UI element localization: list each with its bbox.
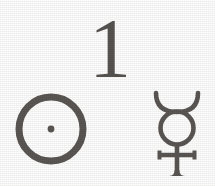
mercury-foot-serif: [169, 170, 185, 176]
mercury-horns: [156, 93, 198, 112]
mercury-crossbar-left-serif: [158, 151, 162, 160]
mercury-crossbar-right-serif: [193, 151, 197, 160]
sun-symbol: [12, 90, 90, 168]
mercury-symbol: [148, 88, 206, 180]
numeral-one: 1: [80, 2, 140, 96]
sun-center-dot: [48, 126, 55, 133]
mercury-circle: [161, 112, 194, 145]
symbol-plate: 1: [0, 0, 215, 186]
